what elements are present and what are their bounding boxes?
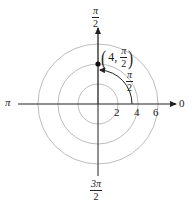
arc-angle-label: π 2 bbox=[126, 70, 133, 93]
arc-label-den: 2 bbox=[127, 82, 132, 93]
point-label-theta: π 2 bbox=[120, 46, 127, 69]
radial-tick-4: 4 bbox=[134, 107, 140, 118]
point-label-r: 4, bbox=[108, 50, 117, 65]
label-zero: 0 bbox=[179, 98, 185, 109]
point-label: ( 4, π 2 ) bbox=[100, 46, 135, 69]
radial-tick-6: 6 bbox=[153, 107, 159, 118]
label-3pi-over-2: 3π 2 bbox=[90, 179, 102, 202]
label-bottom-den: 2 bbox=[94, 191, 99, 202]
label-top-num: π bbox=[92, 6, 99, 18]
paren-right: ) bbox=[128, 47, 133, 69]
radial-tick-2: 2 bbox=[114, 107, 120, 118]
arc-label-num: π bbox=[126, 70, 133, 82]
label-bottom-num: 3π bbox=[90, 179, 102, 191]
point-theta-den: 2 bbox=[121, 58, 126, 69]
label-pi-over-2: π 2 bbox=[92, 6, 99, 29]
paren-left: ( bbox=[101, 47, 106, 69]
label-pi: π bbox=[5, 97, 11, 108]
point-theta-num: π bbox=[120, 46, 127, 58]
label-top-den: 2 bbox=[93, 18, 98, 29]
